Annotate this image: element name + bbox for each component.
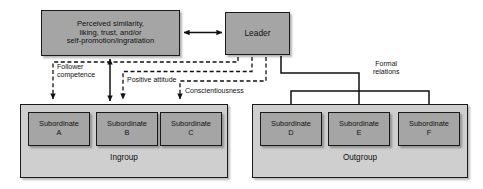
conscientiousness-line-1: Conscientiousness [185,87,244,94]
edge-leader-subordinate-e [281,56,359,111]
subordinate-a-line-1: Subordinate [39,119,79,128]
edge-label-conscientiousness: Conscientiousness [185,87,244,95]
subordinate-e-line-1: Subordinate [339,119,379,128]
formal-relations-line-1: Formal [375,60,397,67]
edge-label-follower-competence: Follower competence [57,63,95,79]
subordinate-a-line-2: A [57,128,62,137]
follower-competence-line-2: competence [57,71,95,78]
subordinate-a-box: Subordinate A [28,112,90,146]
edge-label-formal-relations: Formal relations [373,60,399,76]
subordinate-c-line-2: C [188,128,193,137]
subordinate-d-line-1: Subordinate [271,119,311,128]
edge-label-positive-attitude: Positive attitude [127,76,176,84]
subordinate-b-line-2: B [125,128,130,137]
ingroup-label: Ingroup [20,153,228,162]
subordinate-d-line-2: D [288,128,293,137]
subordinate-f-line-1: Subordinate [409,119,449,128]
leader-label: Leader [244,29,270,39]
perceived-similarity-box: Perceived similarity, liking, trust, and… [41,10,180,56]
lmx-diagram: Perceived similarity, liking, trust, and… [0,0,483,189]
subordinate-c-line-1: Subordinate [171,119,211,128]
subordinate-e-line-2: E [357,128,362,137]
leader-box: Leader [225,12,290,55]
follower-competence-line-1: Follower [57,63,83,70]
subordinate-c-box: Subordinate C [160,112,222,146]
subordinate-f-box: Subordinate F [398,112,460,146]
subordinate-f-line-2: F [427,128,432,137]
subordinate-b-line-1: Subordinate [107,119,147,128]
positive-attitude-line-1: Positive attitude [127,76,176,83]
perceived-line-3: self-promotion/ingratiation [67,37,154,46]
outgroup-label: Outgroup [252,153,468,162]
subordinate-e-box: Subordinate E [328,112,390,146]
formal-relations-line-2: relations [373,68,399,75]
subordinate-d-box: Subordinate D [260,112,322,146]
subordinate-b-box: Subordinate B [96,112,158,146]
